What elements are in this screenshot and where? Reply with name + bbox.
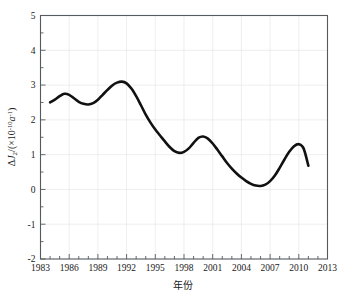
x-tick-label: 1992	[117, 263, 136, 273]
x-tick-label: 1995	[146, 263, 165, 273]
x-tick-label: 1989	[88, 263, 107, 273]
x-tick-label: 1998	[175, 263, 194, 273]
y-tick-label: -1	[28, 220, 36, 230]
y-tick-label: 5	[31, 11, 36, 21]
y-title-close: )	[6, 108, 18, 111]
y-tick-label: 4	[31, 46, 36, 56]
x-tick-label: 2001	[203, 263, 222, 273]
chart-figure: 1983198619891992199519982001200420072010…	[0, 0, 350, 300]
y-tick-label: -2	[28, 254, 36, 264]
y-tick-label: 3	[31, 80, 36, 90]
y-tick-label: 0	[31, 185, 36, 195]
x-tick-label: 2010	[289, 263, 308, 273]
x-tick-labels: 1983198619891992199519982001200420072010…	[31, 263, 337, 273]
y-title-exponent-1: -10	[6, 121, 13, 130]
y-tick-labels: -2-1012345	[28, 11, 36, 265]
data-series-line	[50, 82, 308, 186]
y-tick-label: 2	[31, 115, 36, 125]
y-axis-title: ΔJ2/(×10-10a-1)	[6, 108, 19, 167]
y-title-divider: /(×10	[6, 130, 18, 152]
x-axis-title: 年份	[173, 279, 193, 291]
x-tick-label: 2007	[261, 263, 280, 273]
gridlines	[41, 16, 328, 260]
x-tick-label: 2013	[318, 263, 337, 273]
svg-text:ΔJ2/(×10-10a-1): ΔJ2/(×10-10a-1)	[6, 108, 19, 167]
x-tick-label: 1986	[60, 263, 79, 273]
y-tick-label: 1	[31, 150, 36, 160]
x-tick-label: 1983	[31, 263, 50, 273]
x-tick-label: 2004	[232, 263, 251, 273]
